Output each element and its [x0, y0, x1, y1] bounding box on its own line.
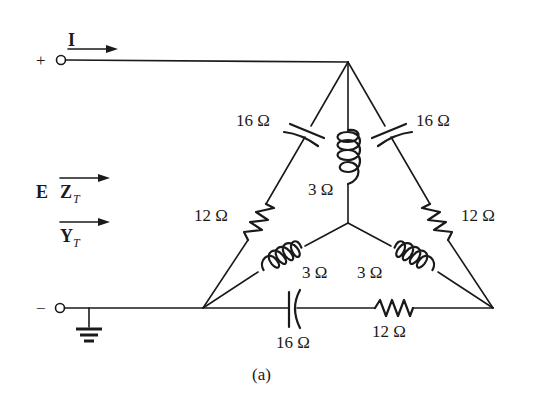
impedance-subscript: T	[73, 192, 81, 206]
capacitor-bottom	[289, 290, 300, 328]
ind-top-label: 3 Ω	[308, 180, 333, 199]
inductor-right	[391, 238, 438, 274]
inductor-top	[338, 130, 361, 184]
circuit-diagram: + − I E Z T Y T	[0, 0, 534, 401]
top-wire	[66, 60, 349, 62]
inductor-left	[258, 238, 305, 274]
current-arrow: I	[68, 30, 118, 53]
ground-icon	[76, 308, 102, 341]
current-label: I	[68, 30, 75, 50]
ind-left-label: 3 Ω	[302, 263, 327, 282]
cap-right-label: 16 Ω	[416, 111, 450, 130]
res-right-label: 12 Ω	[461, 206, 495, 225]
impedance-label: Z	[60, 182, 72, 202]
resistor-left	[244, 204, 274, 240]
admittance-subscript: T	[73, 236, 81, 250]
admittance-label: Y	[60, 226, 73, 246]
res-left-label: 12 Ω	[194, 206, 228, 225]
cap-left-label: 16 Ω	[236, 111, 270, 130]
positive-terminal-sign: +	[36, 51, 46, 70]
impedance-arrow: Z T	[60, 174, 110, 206]
res-bottom-label: 12 Ω	[372, 322, 406, 341]
wye-right-branch: 3 Ω	[348, 223, 493, 308]
capacitor-right	[372, 124, 412, 146]
admittance-arrow: Y T	[60, 218, 110, 250]
wye-left-branch: 3 Ω	[203, 223, 348, 308]
negative-terminal-sign: −	[36, 299, 46, 318]
ind-right-label: 3 Ω	[357, 263, 382, 282]
resistor-bottom	[375, 300, 413, 316]
source-label: E	[36, 182, 48, 202]
negative-terminal	[56, 304, 65, 313]
capacitor-left	[284, 124, 324, 146]
delta-bottom-branch: 16 Ω 12 Ω	[203, 290, 493, 352]
cap-bottom-label: 16 Ω	[276, 333, 310, 352]
resistor-right	[422, 204, 452, 240]
figure-caption: (a)	[252, 365, 271, 384]
positive-terminal	[57, 56, 66, 65]
